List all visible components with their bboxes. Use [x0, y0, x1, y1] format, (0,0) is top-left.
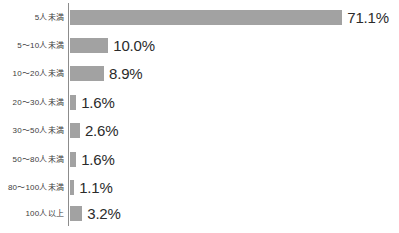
bar-value-label: 3.2% [87, 206, 120, 221]
bar [70, 152, 76, 167]
bar-value-label: 71.1% [347, 10, 389, 25]
bar-group: 1.6% [70, 152, 115, 167]
category-label: 80～100人未満 [0, 183, 64, 193]
bar-group: 1.6% [70, 95, 115, 110]
bar-group: 71.1% [70, 10, 389, 25]
category-label: 30～50人未満 [0, 126, 64, 136]
chart-row: 100人以上3.2% [0, 204, 399, 224]
bar [70, 123, 80, 138]
category-label: 5人未満 [0, 13, 64, 23]
horizontal-bar-chart: 5人未満71.1%5～10人未満10.0%10～20人未満8.9%20～30人未… [0, 0, 399, 233]
bar [70, 38, 108, 53]
category-label: 5～10人未満 [0, 41, 64, 51]
bar [70, 180, 74, 195]
chart-row: 20～30人未満1.6% [0, 93, 399, 113]
chart-rows: 5人未満71.1%5～10人未満10.0%10～20人未満8.9%20～30人未… [0, 0, 399, 233]
bar-value-label: 2.6% [85, 123, 118, 138]
bar-group: 1.1% [70, 180, 113, 195]
bar [70, 10, 342, 25]
bar [70, 95, 76, 110]
category-label: 10～20人未満 [0, 69, 64, 79]
bar-group: 2.6% [70, 123, 118, 138]
bar-group: 10.0% [70, 38, 155, 53]
chart-row: 30～50人未満2.6% [0, 121, 399, 141]
bar [70, 206, 82, 221]
category-label: 100人以上 [0, 209, 64, 219]
bar-value-label: 1.6% [81, 152, 114, 167]
bar-value-label: 1.6% [81, 95, 114, 110]
chart-row: 80～100人未満1.1% [0, 178, 399, 198]
bar [70, 66, 104, 81]
chart-row: 5人未満71.1% [0, 8, 399, 28]
chart-row: 10～20人未満8.9% [0, 64, 399, 84]
bar-group: 3.2% [70, 206, 121, 221]
bar-group: 8.9% [70, 66, 142, 81]
bar-value-label: 1.1% [79, 180, 112, 195]
chart-row: 50～80人未満1.6% [0, 150, 399, 170]
category-label: 20～30人未満 [0, 98, 64, 108]
bar-value-label: 8.9% [109, 66, 142, 81]
bar-value-label: 10.0% [113, 38, 155, 53]
category-label: 50～80人未満 [0, 155, 64, 165]
chart-row: 5～10人未満10.0% [0, 36, 399, 56]
